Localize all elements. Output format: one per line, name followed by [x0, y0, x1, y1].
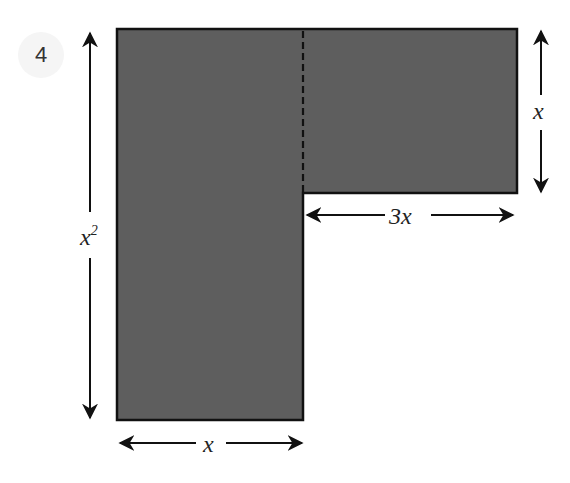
diagram: 4 x2 x 3x: [0, 0, 570, 483]
problem-number-badge: 4: [18, 32, 64, 78]
l-shape-figure: x2 x 3x x: [0, 0, 570, 483]
right-height-dimension: x: [532, 31, 544, 192]
bottom-width-dimension: x: [120, 431, 302, 457]
left-height-label: x2: [79, 223, 98, 250]
arm-width-label: 3x: [388, 203, 412, 229]
bottom-width-label: x: [202, 431, 214, 457]
l-shape: [117, 29, 517, 420]
problem-number: 4: [35, 42, 47, 68]
right-height-label: x: [532, 98, 544, 124]
left-height-dimension: x2: [79, 33, 98, 418]
arm-width-dimension: 3x: [307, 203, 513, 229]
